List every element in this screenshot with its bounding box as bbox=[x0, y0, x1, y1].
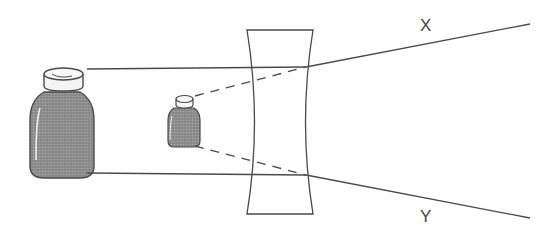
concave-lens bbox=[247, 30, 313, 214]
lens-diagram bbox=[0, 0, 559, 235]
small-bottle-image bbox=[168, 96, 200, 148]
refracted-ray-x bbox=[306, 24, 530, 67]
large-bottle-object bbox=[30, 68, 94, 178]
ray-label-y: Y bbox=[420, 207, 431, 227]
virtual-ray-bottom bbox=[195, 146, 306, 175]
refracted-ray-y bbox=[306, 175, 530, 218]
incident-ray-bottom bbox=[87, 173, 306, 175]
incident-ray-top bbox=[87, 67, 306, 69]
ray-label-x: X bbox=[420, 16, 431, 36]
virtual-ray-top bbox=[195, 67, 306, 96]
